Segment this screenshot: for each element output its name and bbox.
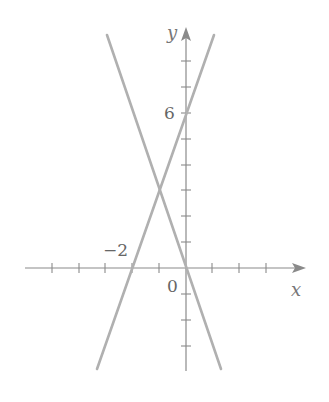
y-axis-label: y <box>166 22 178 43</box>
y-axis <box>181 27 191 371</box>
tick-label-6: 6 <box>164 103 175 123</box>
line-1-y-eq-3x-plus-6 <box>97 35 214 369</box>
origin-label: 0 <box>167 276 178 296</box>
chart-canvas: y x 6 −2 0 <box>0 0 329 402</box>
x-axis <box>25 263 306 273</box>
x-axis-label: x <box>291 279 301 300</box>
tick-label-minus-2: −2 <box>103 240 128 260</box>
line-2-y-eq-neg-3x <box>107 35 221 369</box>
